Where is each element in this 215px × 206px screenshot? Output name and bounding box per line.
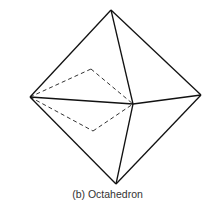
visible-edges: [30, 10, 201, 184]
octahedron-diagram: [0, 0, 215, 206]
figure-caption: (b) Octahedron: [0, 188, 215, 200]
